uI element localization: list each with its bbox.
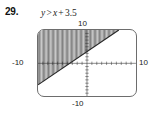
graphing-calculator-screen [37, 29, 137, 97]
x-axis-min-label: -10 [12, 58, 24, 67]
inequality-rhs-constant: 3.5 [65, 8, 77, 18]
inequality-relation-symbol: > [45, 8, 53, 18]
screen-frame [37, 29, 137, 97]
x-axis-max-label: 10 [139, 58, 148, 67]
exercise-item: 29. y>x+3.5 [0, 0, 154, 118]
y-axis-max-label: 10 [78, 19, 87, 28]
inequality-expression: y>x+3.5 [41, 7, 77, 19]
y-axis-min-label: -10 [72, 99, 84, 108]
inequality-rhs-operator: + [57, 8, 65, 18]
coordinate-plane [38, 30, 136, 97]
problem-number: 29. [5, 6, 18, 18]
